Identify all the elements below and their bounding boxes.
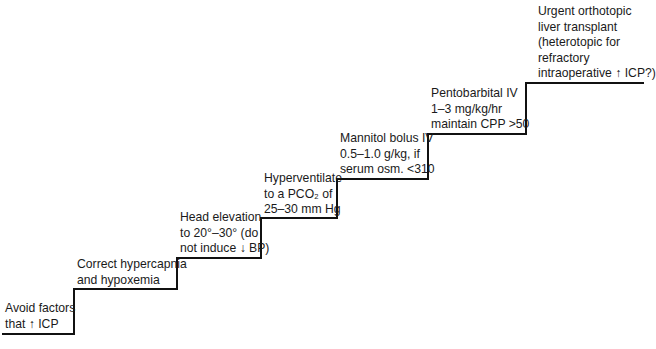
step-1-line-1: Avoid factors (5, 301, 75, 317)
step-3-line-3: not induce ↓ BP) (180, 241, 269, 257)
step-3-line-1: Head elevation (180, 210, 269, 226)
step-7-line-1: Urgent orthotopic (538, 4, 656, 20)
step-3-line-2: to 20°–30° (do (180, 226, 269, 242)
step-7-line-4: refractory (538, 51, 656, 67)
step-4-line-3: 25–30 mm Hg (264, 202, 342, 218)
step-2-correct-hypercapnia: Correct hypercapnia and hypoxemia (77, 257, 187, 288)
step-2-line-1: Correct hypercapnia (77, 257, 187, 273)
step-1-line-2: that ↑ ICP (5, 317, 75, 333)
step-5-line-1: Mannitol bolus IV (340, 131, 435, 147)
step-5-line-2: 0.5–1.0 g/kg, if (340, 147, 435, 163)
step-4-line-2: to a PCO₂ of (264, 187, 342, 203)
step-6-line-1: Pentobarbital IV (431, 86, 529, 102)
step-1-avoid-icp-factors: Avoid factors that ↑ ICP (5, 301, 75, 332)
step-7-line-3: (heterotopic for (538, 35, 656, 51)
step-7-liver-transplant: Urgent orthotopic liver transplant (hete… (538, 4, 656, 82)
step-2-line-2: and hypoxemia (77, 273, 187, 289)
step-7-line-5: intraoperative ↑ ICP?) (538, 66, 656, 82)
step-4-hyperventilate: Hyperventilate to a PCO₂ of 25–30 mm Hg (264, 171, 342, 218)
step-6-line-2: 1–3 mg/kg/hr (431, 102, 529, 118)
step-7-line-2: liver transplant (538, 20, 656, 36)
step-4-line-1: Hyperventilate (264, 171, 342, 187)
step-6-line-3: maintain CPP >50 (431, 117, 529, 133)
step-6-pentobarbital: Pentobarbital IV 1–3 mg/kg/hr maintain C… (431, 86, 529, 133)
step-5-mannitol: Mannitol bolus IV 0.5–1.0 g/kg, if serum… (340, 131, 435, 178)
step-3-head-elevation: Head elevation to 20°–30° (do not induce… (180, 210, 269, 257)
step-5-line-3: serum osm. <310 (340, 162, 435, 178)
